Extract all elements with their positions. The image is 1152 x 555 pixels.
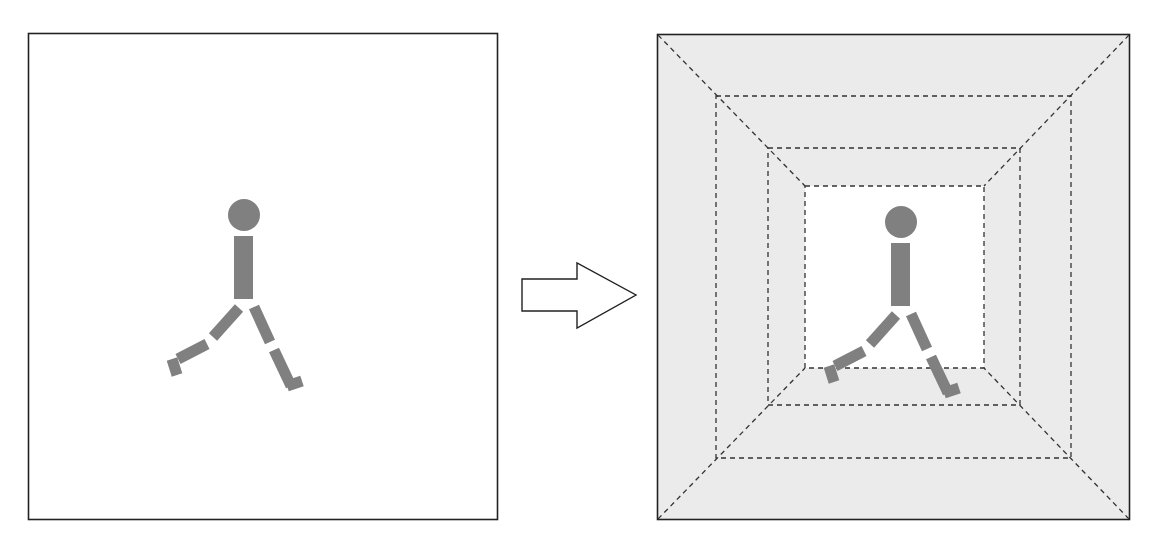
figure-head bbox=[228, 199, 260, 231]
figure-right-foot bbox=[287, 381, 302, 386]
left-panel-frame bbox=[29, 34, 498, 520]
diagram bbox=[0, 0, 1152, 555]
figure-left-foot bbox=[829, 366, 834, 382]
figure-head bbox=[885, 206, 917, 238]
figure-right-foot bbox=[944, 388, 959, 393]
figure-left-foot bbox=[172, 359, 177, 375]
left-panel bbox=[29, 34, 498, 520]
right-arrow-icon bbox=[522, 263, 636, 328]
right-panel bbox=[658, 35, 1130, 520]
